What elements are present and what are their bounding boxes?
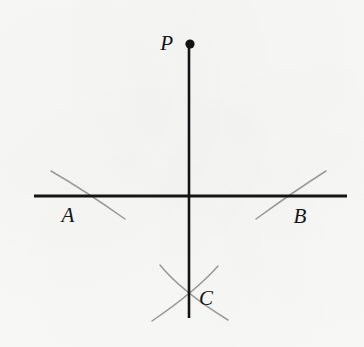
label-c: C — [199, 286, 214, 310]
point-p-dot — [185, 39, 194, 48]
label-a: A — [60, 203, 75, 227]
label-p: P — [159, 31, 173, 55]
arc-at-c-left — [160, 265, 228, 320]
geometry-figure: P A B C — [0, 0, 364, 347]
label-b: B — [294, 204, 307, 228]
construction-canvas: P A B C — [0, 0, 364, 347]
